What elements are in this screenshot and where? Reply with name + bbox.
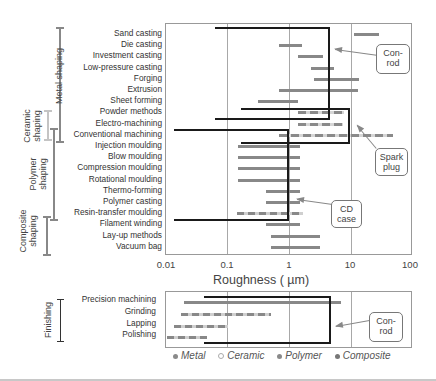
row-label: Sand casting	[114, 28, 162, 38]
row-label: Compression moulding	[77, 162, 162, 172]
bar-low-pressure-casting	[311, 67, 334, 70]
ceramic-dot-icon	[218, 353, 224, 359]
bar-lapping	[174, 325, 228, 328]
legend-item-ceramic: Ceramic	[218, 350, 264, 361]
envelope-cdcase-bottom	[174, 219, 289, 221]
envelope-sparkplug-bottom	[241, 142, 350, 144]
row-label: Polymer casting	[103, 196, 162, 206]
polymer-dot-icon	[277, 354, 282, 359]
row-label: Rotational moulding	[89, 174, 162, 184]
legend: Metal Ceramic Polymer Composite	[173, 350, 401, 361]
envelope-cdcase-top	[174, 129, 289, 131]
bar-rotational-moulding	[238, 179, 300, 182]
row-label: Vacuum bag	[116, 241, 162, 251]
envelope-conrod-bottom-right	[329, 296, 331, 344]
bar-investment-casting	[298, 55, 323, 58]
group-label-composite: Composite shaping	[18, 203, 38, 259]
bar-lay-up-methods	[271, 235, 320, 238]
callout-conrod: Con- rod	[376, 44, 410, 74]
envelope-conrod-top	[215, 27, 330, 29]
envelope-conrod-bottom-top	[204, 296, 331, 298]
row-label: Forging	[134, 73, 162, 83]
bar-grinding	[181, 313, 271, 316]
group-label-polymer: Polymer shaping	[28, 149, 48, 199]
row-labels-top: Sand casting Die casting Investment cast…	[60, 28, 162, 253]
bar-polishing	[167, 336, 207, 339]
envelope-sparkplug-top	[241, 108, 350, 110]
group-label-finishing: Finishing	[43, 295, 53, 345]
envelope-conrod-right	[328, 27, 330, 120]
row-label: Low-pressure casting	[83, 62, 162, 72]
row-label: Resin-transfer moulding	[74, 207, 162, 217]
row-label: Investment casting	[93, 50, 162, 60]
callout-sparkplug: Spark plug	[375, 148, 408, 176]
row-label: Blow moulding	[108, 151, 162, 161]
x-tick: 100	[402, 259, 418, 270]
envelope-conrod-bottom-bottom	[204, 342, 331, 344]
bar-powder-methods	[298, 111, 344, 114]
bar-resin-transfer-moulding	[237, 212, 303, 215]
group-label-ceramic: Ceramic shaping	[22, 101, 42, 151]
row-label: Lay-up methods	[103, 230, 163, 240]
row-labels-bottom: Precision machining Grinding Lapping Pol…	[60, 294, 156, 344]
row-label: Filament winding	[100, 218, 162, 228]
gridline	[351, 292, 352, 347]
bar-blow-moulding	[238, 156, 300, 159]
bar-precision-machining	[184, 301, 341, 304]
x-tick: 1	[286, 259, 291, 270]
group-bracket-ceramic	[47, 110, 49, 141]
bar-forging	[314, 78, 359, 81]
row-label: Polishing	[122, 329, 156, 339]
bar-compression-moulding	[238, 167, 300, 170]
row-label: Conventional machining	[73, 129, 162, 139]
bar-filament-winding	[266, 223, 300, 226]
callout-cdcase: CD case	[331, 200, 362, 228]
row-label: Powder methods	[100, 106, 162, 116]
bar-vacuum-bag	[271, 246, 320, 249]
bar-thermo-forming	[266, 190, 300, 193]
bar-sheet-forming	[258, 100, 298, 103]
callout-conrod-bottom: Con- rod	[369, 312, 403, 342]
gridline	[289, 24, 290, 254]
bar-electro-machining	[298, 123, 343, 126]
x-tick: 0.01	[157, 259, 176, 270]
x-axis-label: Roughness ( µm)	[213, 273, 309, 287]
composite-dot-icon	[335, 354, 340, 359]
group-bracket-polymer	[53, 128, 55, 221]
legend-item-polymer: Polymer	[277, 350, 322, 361]
row-label: Grinding	[125, 306, 156, 316]
row-label: Extrusion	[127, 84, 162, 94]
envelope-conrod-bottom	[215, 118, 330, 120]
metal-dot-icon	[173, 354, 178, 359]
legend-item-composite: Composite	[335, 350, 391, 361]
bar-sand-casting	[354, 33, 379, 36]
bar-extrusion	[279, 89, 358, 92]
envelope-cdcase-right	[287, 129, 289, 221]
x-tick: 0.1	[220, 259, 233, 270]
row-label: Thermo-forming	[103, 185, 162, 195]
bar-die-casting	[279, 44, 302, 47]
row-label: Lapping	[126, 318, 156, 328]
envelope-sparkplug-right	[348, 108, 350, 144]
bar-injection-moulding	[238, 145, 300, 148]
row-label: Precision machining	[82, 294, 156, 304]
row-label: Sheet forming	[110, 95, 162, 105]
bar-conventional-machining	[279, 134, 393, 137]
x-tick: 10	[345, 259, 356, 270]
legend-item-metal: Metal	[173, 350, 205, 361]
row-label: Injection moulding	[95, 140, 162, 150]
row-label: Electro-machining	[96, 118, 162, 128]
group-bracket-composite	[46, 216, 48, 256]
row-label: Die casting	[121, 39, 162, 49]
